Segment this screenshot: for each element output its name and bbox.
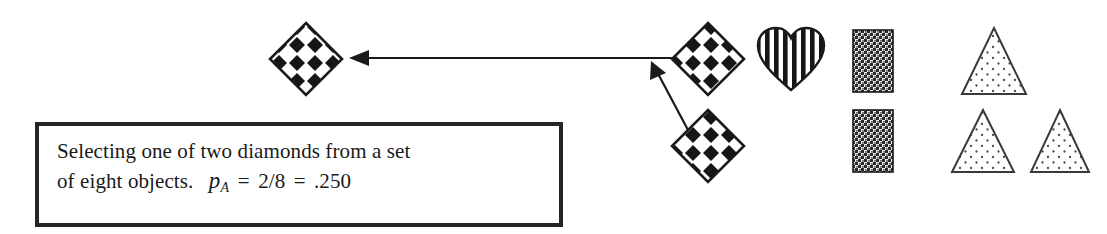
diamond-selected-target: [270, 23, 342, 95]
caption-text: Selecting one of two diamonds from a set…: [57, 136, 549, 203]
formula-fraction: 2/8: [258, 169, 285, 193]
formula-variable: p: [209, 168, 221, 193]
caption-line-2-prefix: of eight objects.: [57, 169, 193, 193]
formula-equals-2: =: [294, 169, 306, 193]
rectangle-hatched-top: [853, 30, 893, 92]
formula-equals-1: =: [238, 169, 250, 193]
triangle-dotted-bottom-right: [1031, 110, 1089, 172]
caption-box: Selecting one of two diamonds from a set…: [35, 122, 563, 227]
caption-line-2: of eight objects. pA = 2/8 = .250: [57, 166, 549, 203]
diamond-source-top: [672, 23, 744, 95]
triangle-dotted-top: [962, 28, 1026, 94]
arrow-horizontal-to-result: [349, 50, 672, 66]
formula-subscript: A: [220, 180, 229, 195]
triangle-dotted-bottom-left: [952, 110, 1014, 172]
probability-formula: pA = 2/8 = .250: [209, 166, 351, 203]
formula-value: .250: [314, 169, 351, 193]
caption-line-1: Selecting one of two diamonds from a set: [57, 136, 549, 166]
rectangle-hatched-bottom: [853, 110, 893, 172]
heart-striped: [758, 28, 824, 90]
probability-figure: Selecting one of two diamonds from a set…: [0, 0, 1107, 234]
arrow-diagonal-from-lower-diamond: [650, 61, 688, 130]
